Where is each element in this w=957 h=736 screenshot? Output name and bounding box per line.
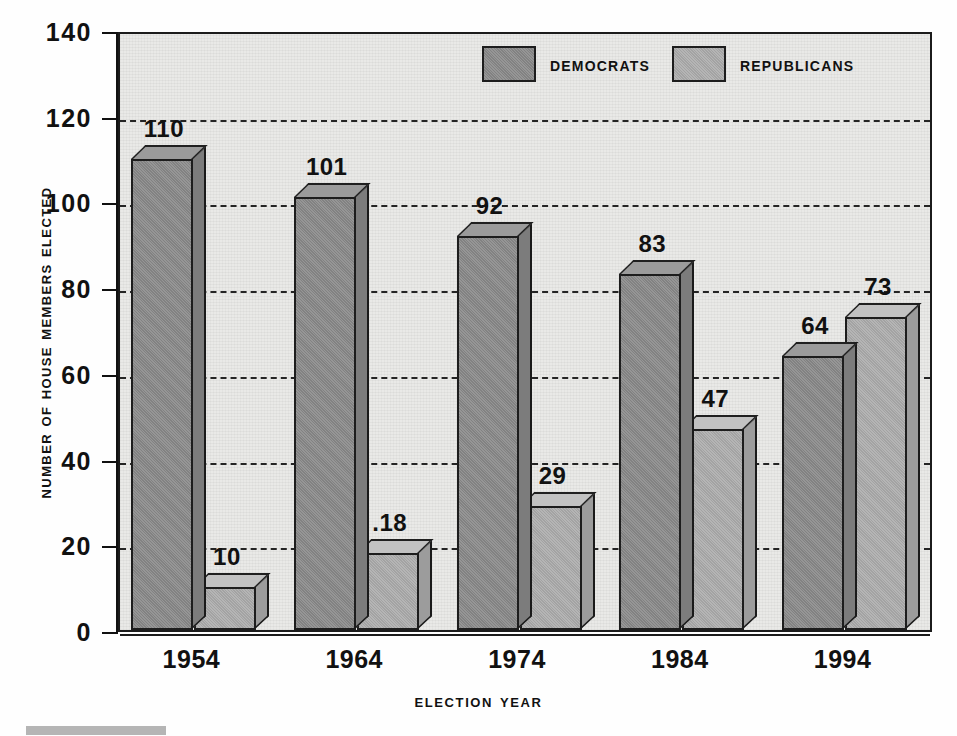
y-tick-label-40: 40 [0, 446, 92, 475]
y-tick-label-140: 140 [0, 18, 92, 47]
y-tick-mark-20 [102, 546, 118, 548]
gridline-100 [120, 205, 930, 207]
legend-item-republicans[interactable]: Republicans [672, 46, 854, 82]
y-tick-mark-40 [102, 461, 118, 463]
y-tick-label-80: 80 [0, 275, 92, 304]
gridline-120 [120, 120, 930, 122]
bar-chart-figure: Number of House Members Elected 02040608… [0, 0, 957, 736]
bar-democrats-1964[interactable] [294, 197, 356, 630]
bar-democrats-1954[interactable] [131, 159, 193, 630]
gridline-0 [120, 634, 930, 636]
y-tick-label-20: 20 [0, 532, 92, 561]
bar-side-face [517, 222, 532, 630]
bar-democrats-1974[interactable] [457, 236, 519, 630]
x-tick-label-1954: 1954 [163, 645, 221, 674]
bar-side-face [842, 342, 857, 630]
x-axis-title: Election Year [0, 690, 957, 712]
x-tick-label-1984: 1984 [651, 645, 709, 674]
bar-front-face [782, 356, 844, 630]
y-tick-label-100: 100 [0, 189, 92, 218]
bar-value-label-republicans-1974: 29 [539, 462, 567, 490]
scan-artifact-strip [26, 726, 166, 735]
legend-item-democrats[interactable]: Democrats [482, 46, 650, 82]
x-tick-label-1994: 1994 [814, 645, 872, 674]
bar-front-face [457, 236, 519, 630]
y-tick-label-60: 60 [0, 360, 92, 389]
bar-side-face [742, 415, 757, 630]
bar-value-label-democrats-1984: 83 [638, 230, 666, 258]
legend-swatch-democrats [482, 46, 536, 82]
bar-value-label-democrats-1974: 92 [476, 192, 504, 220]
bar-front-face [294, 197, 356, 630]
bar-side-face [679, 260, 694, 630]
bar-value-label-republicans-1954: 10 [213, 543, 241, 571]
bar-value-label-republicans-1964: .18 [372, 509, 407, 537]
bar-value-label-democrats-1994: 64 [801, 312, 829, 340]
bar-side-face [354, 183, 369, 630]
x-tick-label-1974: 1974 [488, 645, 546, 674]
bar-value-label-democrats-1964: 101 [306, 153, 348, 181]
bar-value-label-democrats-1954: 110 [144, 115, 184, 143]
bar-democrats-1984[interactable] [619, 274, 681, 630]
bar-side-face [580, 492, 595, 630]
bar-value-label-republicans-1984: 47 [701, 385, 729, 413]
bar-front-face [619, 274, 681, 630]
y-tick-mark-140 [102, 32, 118, 34]
bar-front-face [131, 159, 193, 630]
legend-label-republicans: Republicans [740, 53, 854, 76]
y-tick-mark-0 [102, 632, 118, 634]
y-tick-mark-80 [102, 289, 118, 291]
bar-side-face [905, 303, 920, 630]
legend-swatch-republicans [672, 46, 726, 82]
bar-democrats-1994[interactable] [782, 356, 844, 630]
y-tick-label-120: 120 [0, 103, 92, 132]
bar-side-face [191, 145, 206, 630]
y-tick-mark-100 [102, 203, 118, 205]
y-tick-mark-60 [102, 375, 118, 377]
chart-legend: DemocratsRepublicans [482, 46, 854, 82]
y-tick-mark-120 [102, 118, 118, 120]
x-tick-label-1964: 1964 [325, 645, 383, 674]
y-tick-label-0: 0 [0, 618, 92, 647]
legend-label-democrats: Democrats [550, 53, 650, 76]
bar-value-label-republicans-1994: 73 [864, 273, 892, 301]
